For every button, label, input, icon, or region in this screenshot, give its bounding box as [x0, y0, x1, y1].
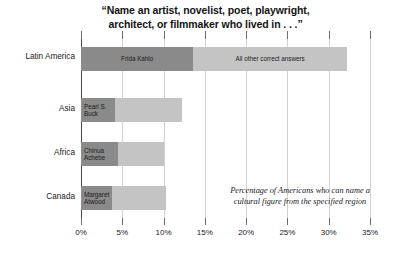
chart-annotation-line-2: cultural figure from the specified regio… — [205, 197, 395, 208]
x-tick-top-10% — [164, 31, 165, 39]
category-label-asia: Asia — [59, 104, 75, 114]
bar-segment-primary[interactable]: Pearl S. Buck — [81, 98, 115, 122]
category-label-africa: Africa — [54, 148, 75, 158]
stacked-bar[interactable]: Margaret Atwood — [81, 186, 166, 210]
x-axis-tick-label: 30% — [309, 228, 349, 237]
x-tick-bottom-20% — [246, 218, 247, 225]
x-axis-tick-label: 5% — [102, 228, 142, 237]
bar-segment-other[interactable] — [115, 98, 182, 122]
x-tick-bottom-30% — [329, 218, 330, 225]
bar-segment-other[interactable]: All other correct answers — [193, 47, 347, 71]
x-tick-top-0% — [81, 31, 82, 39]
x-axis-tick-label: 15% — [185, 228, 225, 237]
bar-segment-primary[interactable]: Margaret Atwood — [81, 186, 112, 210]
x-tick-bottom-5% — [122, 218, 123, 225]
category-label-latin-america: Latin America — [25, 52, 75, 62]
stacked-bar[interactable]: Frida KahloAll other correct answers — [81, 47, 347, 71]
x-tick-bottom-25% — [287, 218, 288, 225]
category-label-canada: Canada — [46, 192, 75, 202]
x-axis-tick-label: 25% — [267, 228, 307, 237]
x-axis-tick-label: 10% — [144, 228, 184, 237]
chart-container: “Name an artist, novelist, poet, playwri… — [0, 0, 411, 254]
x-tick-bottom-35% — [370, 218, 371, 225]
x-tick-top-20% — [246, 31, 247, 39]
bar-segment-primary[interactable]: Frida Kahlo — [81, 47, 193, 71]
chart-title-line-1: “Name an artist, novelist, poet, playwri… — [0, 4, 411, 18]
x-tick-top-15% — [205, 31, 206, 39]
stacked-bar[interactable]: Chinua Achebe — [81, 142, 164, 166]
bar-segment-other[interactable] — [112, 186, 166, 210]
bar-segment-label: Frida Kahlo — [81, 55, 193, 62]
x-tick-bottom-10% — [164, 218, 165, 225]
bar-segment-label: Pearl S. Buck — [81, 103, 109, 118]
chart-annotation-line-1: Percentage of Americans who can name a — [205, 186, 395, 197]
stacked-bar[interactable]: Pearl S. Buck — [81, 98, 182, 122]
x-tick-top-30% — [329, 31, 330, 39]
x-tick-top-5% — [122, 31, 123, 39]
x-tick-bottom-15% — [205, 218, 206, 225]
bar-segment-label: Chinua Achebe — [81, 147, 108, 162]
chart-title: “Name an artist, novelist, poet, playwri… — [0, 4, 411, 31]
x-axis-tick-label: 0% — [61, 228, 101, 237]
x-axis-tick-label: 35% — [350, 228, 390, 237]
chart-title-line-2: architect, or filmmaker who lived in . .… — [0, 18, 411, 32]
x-axis-tick-label: 20% — [226, 228, 266, 237]
chart-annotation: Percentage of Americans who can name a c… — [205, 186, 395, 207]
x-tick-top-35% — [370, 31, 371, 39]
bar-segment-label: All other correct answers — [193, 55, 347, 62]
bar-segment-primary[interactable]: Chinua Achebe — [81, 142, 118, 166]
bar-segment-label: Margaret Atwood — [81, 191, 112, 206]
bar-segment-other[interactable] — [118, 142, 164, 166]
x-tick-bottom-0% — [81, 218, 82, 225]
x-tick-top-25% — [287, 31, 288, 39]
